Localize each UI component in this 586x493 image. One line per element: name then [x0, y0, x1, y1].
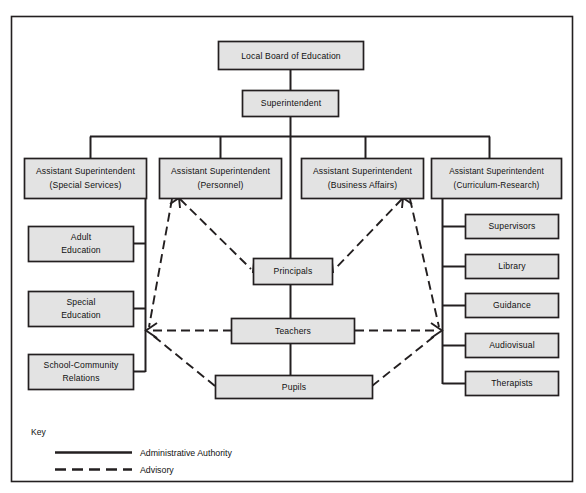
node-label-line1: Special	[66, 297, 95, 307]
node-label: Therapists	[491, 378, 533, 388]
node-label: Supervisors	[488, 221, 535, 231]
node-label-line2: (Personnel)	[197, 180, 243, 190]
node-label-line1: Adult	[71, 232, 92, 242]
node-label-line1: Assistant Superintendent	[449, 167, 544, 176]
node-audiovisual[interactable]: Audiovisual	[466, 334, 559, 358]
org-chart-diagram: Local Board of Education Superintendent …	[0, 0, 586, 493]
node-teachers[interactable]: Teachers	[232, 319, 355, 344]
node-pupils[interactable]: Pupils	[216, 376, 373, 399]
key-administrative-authority-label: Administrative Authority	[140, 448, 233, 458]
node-label: Principals	[274, 266, 313, 276]
node-label: Pupils	[282, 382, 306, 392]
node-label-line1: Assistant Superintendent	[171, 166, 271, 176]
node-label: Superintendent	[261, 98, 322, 108]
node-box	[160, 159, 282, 199]
node-label-line2: (Business Affairs)	[328, 180, 397, 190]
node-special-education[interactable]: Special Education	[29, 292, 134, 327]
node-label-line2: Relations	[62, 373, 99, 383]
node-adult-education[interactable]: Adult Education	[29, 227, 134, 262]
node-assistant-superintendent-personnel[interactable]: Assistant Superintendent (Personnel)	[160, 159, 282, 199]
node-principals[interactable]: Principals	[254, 259, 333, 285]
node-label-line1: School-Community	[44, 360, 120, 370]
node-assistant-superintendent-special-services[interactable]: Assistant Superintendent (Special Servic…	[25, 159, 147, 199]
key-title: Key	[31, 427, 47, 437]
node-label: Teachers	[275, 326, 311, 336]
node-label-line2: Education	[61, 245, 101, 255]
node-therapists[interactable]: Therapists	[466, 372, 559, 396]
node-label: Guidance	[493, 300, 531, 310]
node-label-line1: Assistant Superintendent	[313, 166, 413, 176]
node-box	[432, 159, 562, 199]
node-school-community-relations[interactable]: School-Community Relations	[29, 355, 134, 390]
node-label-line1: Assistant Superintendent	[36, 166, 136, 176]
node-label: Local Board of Education	[241, 51, 341, 61]
node-box	[302, 159, 424, 199]
node-label-line2: (Curriculum-Research)	[454, 181, 540, 190]
node-label-line2: Education	[61, 310, 101, 320]
node-label-line2: (Special Services)	[50, 180, 122, 190]
node-label: Library	[498, 261, 526, 271]
node-assistant-superintendent-business-affairs[interactable]: Assistant Superintendent (Business Affai…	[302, 159, 424, 199]
node-box	[25, 159, 147, 199]
node-superintendent[interactable]: Superintendent	[243, 91, 339, 117]
node-assistant-superintendent-curriculum-research[interactable]: Assistant Superintendent (Curriculum-Res…	[432, 159, 562, 199]
node-local-board-of-education[interactable]: Local Board of Education	[219, 42, 364, 70]
node-guidance[interactable]: Guidance	[466, 294, 559, 318]
node-library[interactable]: Library	[466, 255, 559, 279]
key-advisory-label: Advisory	[140, 465, 174, 475]
node-supervisors[interactable]: Supervisors	[466, 215, 559, 239]
node-label: Audiovisual	[489, 340, 535, 350]
